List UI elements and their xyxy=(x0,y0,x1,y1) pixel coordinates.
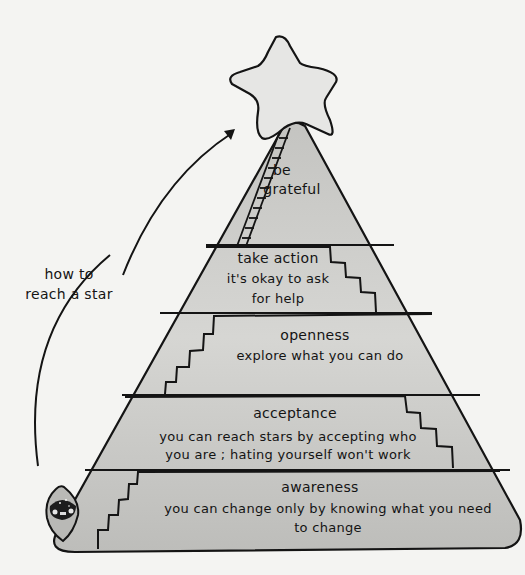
summit-line-1: be xyxy=(252,162,312,178)
level-awareness-heading: awareness xyxy=(250,479,390,495)
annotation-line-2: reach a star xyxy=(14,286,124,302)
level-take-action-heading: take action xyxy=(208,250,348,266)
level-awareness-line-2: to change xyxy=(228,519,428,537)
level-awareness-line-1: you can change only by knowing what you … xyxy=(128,500,525,518)
level-acceptance-line-1: you can reach stars by accepting who xyxy=(118,428,458,446)
summit-line-2: grateful xyxy=(252,181,332,197)
level-acceptance-heading: acceptance xyxy=(225,405,365,421)
level-openness-line-1: explore what you can do xyxy=(210,347,430,365)
level-take-action-line-1: it's okay to ask xyxy=(198,270,358,288)
level-take-action-line-2: for help xyxy=(198,290,358,308)
star-icon xyxy=(230,36,336,138)
level-openness-heading: openness xyxy=(250,327,380,343)
level-acceptance-line-2: you are ; hating yourself won't work xyxy=(118,446,458,464)
annotation-line-1: how to xyxy=(14,266,124,282)
